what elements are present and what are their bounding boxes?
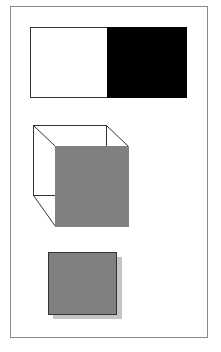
- wireframe-cube: [34, 126, 130, 228]
- white-half: [31, 28, 108, 98]
- black-half: [107, 27, 187, 98]
- cube-front-face: [55, 146, 129, 227]
- gray-square: [49, 253, 117, 315]
- figure-canvas: [0, 0, 221, 352]
- cube-edge: [34, 126, 56, 147]
- cube-edge: [107, 126, 129, 147]
- split-rectangle: [31, 27, 188, 98]
- cube-edge: [34, 196, 56, 227]
- shadowed-square: [49, 253, 123, 320]
